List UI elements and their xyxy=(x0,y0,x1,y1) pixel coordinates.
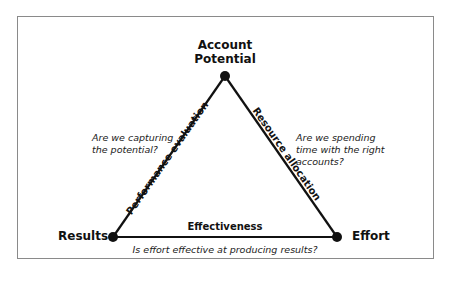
edge-right-question: Are we spending time with the right acco… xyxy=(296,132,385,168)
edge-right-question-line2: time with the right xyxy=(296,144,385,156)
edge-right-question-line1: Are we spending xyxy=(296,132,385,144)
edge-left-question: Are we capturing the potential? xyxy=(92,132,173,156)
node-left-label: Results xyxy=(58,229,108,243)
edge-bottom-question: Is effort effective at producing results… xyxy=(120,244,330,256)
node-top-dot xyxy=(220,71,230,81)
node-left-dot xyxy=(108,232,118,242)
node-top-label: Account Potential xyxy=(190,38,260,66)
node-top-label-line2: Potential xyxy=(190,52,260,66)
edge-left-question-line2: the potential? xyxy=(92,144,173,156)
edge-right-question-line3: accounts? xyxy=(296,156,385,168)
node-right-dot xyxy=(332,232,342,242)
edge-left-question-line1: Are we capturing xyxy=(92,132,173,144)
edge-left-label: Performance evaluation xyxy=(124,99,211,216)
edge-bottom-label: Effectiveness xyxy=(170,221,280,232)
node-right-label: Effort xyxy=(352,229,390,243)
node-top-label-line1: Account xyxy=(190,38,260,52)
